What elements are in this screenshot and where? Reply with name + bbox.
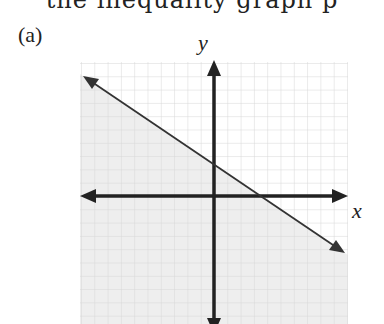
- y-axis-label: y: [198, 30, 208, 56]
- x-axis-label: x: [352, 198, 362, 224]
- inequality-graph: [0, 0, 384, 324]
